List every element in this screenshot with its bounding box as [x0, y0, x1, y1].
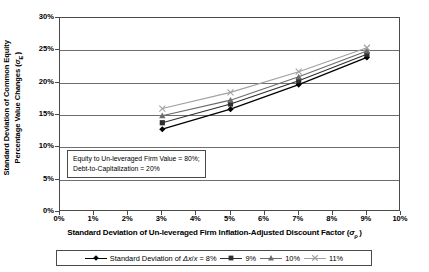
x-axis-tick-mark	[264, 211, 265, 215]
diamond-marker	[93, 255, 99, 261]
y-axis-title: Standard Deviation of Common Equity Perc…	[2, 8, 26, 208]
x-axis-tick-label: 10%	[387, 214, 413, 223]
series-layer	[60, 18, 401, 212]
y-axis-tick-label: 10%	[24, 141, 54, 150]
x-axis-tick-mark	[332, 211, 333, 215]
x-axis-tick-mark	[230, 211, 231, 215]
legend-x-icon	[304, 254, 326, 263]
series-line	[162, 51, 367, 116]
square-marker	[229, 256, 234, 261]
y-axis-tick-label: 25%	[24, 44, 54, 53]
legend-item-0[interactable]: Standard Deviation of Δx/x = 8%	[83, 254, 219, 263]
legend-label: 10%	[285, 254, 302, 263]
series-2	[159, 48, 370, 118]
annotation-line-1: Equity to Un-leveraged Firm Value = 80%;	[73, 154, 200, 164]
x-axis-tick-label: 9%	[353, 214, 379, 223]
legend-item-3[interactable]: 11%	[302, 254, 345, 263]
x-axis-tick-label: 1%	[80, 214, 106, 223]
legend-label: 9%	[245, 254, 258, 263]
x-axis-tick-mark	[161, 211, 162, 215]
diamond-marker	[159, 126, 165, 132]
square-marker	[160, 120, 165, 125]
legend-diamond-icon	[85, 254, 107, 263]
x-axis-tick-label: 2%	[114, 214, 140, 223]
plot-area	[59, 17, 400, 211]
annotation-line-2: Debt-to-Capitalization = 20%	[73, 164, 200, 174]
series-line	[162, 48, 367, 109]
x-axis-tick-mark	[298, 211, 299, 215]
x-axis-tick-mark	[400, 211, 401, 215]
x-axis-tick-label: 4%	[182, 214, 208, 223]
x-axis-tick-mark	[59, 211, 60, 215]
legend-label: 11%	[329, 254, 345, 263]
x-axis-tick-label: 3%	[148, 214, 174, 223]
chart-legend: Standard Deviation of Δx/x = 8%9%10%11%	[56, 250, 372, 266]
y-axis-tick-label: 30%	[24, 12, 54, 21]
legend-triangle-icon	[260, 254, 282, 263]
x-axis-tick-mark	[366, 211, 367, 215]
triangle-marker	[268, 255, 274, 260]
x-axis-tick-label: 6%	[251, 214, 277, 223]
x-axis-title: Standard Deviation of Un-leveraged Firm …	[0, 228, 429, 239]
chart-figure: Standard Deviation of Common Equity Perc…	[0, 0, 429, 272]
x-axis-tick-mark	[195, 211, 196, 215]
x-marker	[312, 255, 318, 261]
x-axis-tick-label: 0%	[46, 214, 72, 223]
annotation-box: Equity to Un-leveraged Firm Value = 80%;…	[67, 150, 206, 178]
y-axis-title-line1: Standard Deviation of Common Equity	[2, 40, 11, 175]
legend-square-icon	[220, 254, 242, 263]
x-axis-tick-mark	[127, 211, 128, 215]
legend-item-1[interactable]: 9%	[218, 254, 258, 263]
diamond-marker	[227, 106, 233, 112]
series-3	[159, 45, 370, 112]
y-axis-tick-label: 20%	[24, 77, 54, 86]
x-axis-tick-label: 8%	[319, 214, 345, 223]
series-0	[159, 54, 370, 132]
x-axis-tick-mark	[93, 211, 94, 215]
y-axis-tick-label: 15%	[24, 109, 54, 118]
series-line	[162, 57, 367, 129]
x-axis-tick-label: 7%	[285, 214, 311, 223]
legend-label: Standard Deviation of Δx/x = 8%	[110, 254, 219, 263]
x-axis-tick-label: 5%	[217, 214, 243, 223]
legend-item-2[interactable]: 10%	[258, 254, 302, 263]
y-axis-tick-label: 5%	[24, 174, 54, 183]
